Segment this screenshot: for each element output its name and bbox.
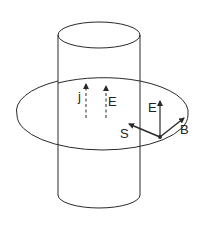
cylinder-bottom (58, 195, 140, 208)
label-S: S (120, 126, 129, 141)
surface-point (158, 135, 162, 139)
field-loop (16, 81, 188, 150)
label-E-surface: E (148, 100, 157, 115)
wire-poynting-diagram: j E E S B (0, 0, 202, 229)
cylinder-wire (58, 22, 140, 208)
S-vector (129, 124, 160, 137)
label-E-inside: E (108, 94, 117, 109)
label-B: B (180, 122, 189, 137)
cylinder-top (58, 22, 140, 48)
label-j: j (77, 89, 81, 104)
